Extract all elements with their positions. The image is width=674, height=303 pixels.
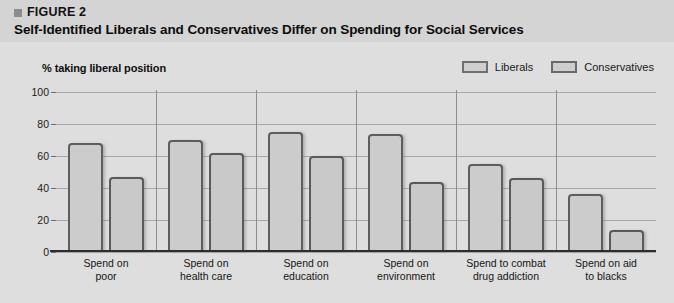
y-tick-mark — [51, 252, 56, 253]
bar-group — [156, 92, 256, 252]
chart-legend: Liberals Conservatives — [462, 61, 654, 73]
category-label: Spend to combatdrug addiction — [456, 257, 556, 283]
bar-group — [56, 92, 156, 252]
bar-conservatives — [609, 230, 644, 252]
bar-group — [256, 92, 356, 252]
category-label: Spend oneducation — [256, 257, 356, 283]
category-label: Spend onhealth care — [156, 257, 256, 283]
bar-group — [556, 92, 656, 252]
bar-group — [356, 92, 456, 252]
square-marker-icon — [14, 9, 22, 17]
category-label: Spend on aidto blacks — [556, 257, 656, 283]
y-tick-label: 40 — [37, 182, 49, 194]
y-tick-label: 100 — [31, 86, 49, 98]
bar-liberals — [68, 143, 103, 252]
y-tick-label: 80 — [37, 118, 49, 130]
y-axis-title: % taking liberal position — [42, 62, 166, 74]
figure-header: FIGURE 2 Self-Identified Liberals and Co… — [0, 0, 674, 42]
legend-swatch-conservatives — [551, 61, 577, 73]
legend-swatch-liberals — [462, 61, 488, 73]
legend-label-liberals: Liberals — [495, 61, 534, 73]
bar-conservatives — [509, 178, 544, 252]
bar-liberals — [468, 164, 503, 252]
category-label: Spend onenvironment — [356, 257, 456, 283]
figure-number-row: FIGURE 2 — [14, 5, 674, 20]
y-tick-label: 0 — [43, 246, 49, 258]
figure-number-label: FIGURE 2 — [27, 6, 86, 19]
y-tick-label: 20 — [37, 214, 49, 226]
bar-conservatives — [109, 177, 144, 252]
bar-groups — [56, 92, 656, 252]
legend-item-liberals: Liberals — [462, 61, 534, 73]
plot-area: 020406080100 — [56, 92, 656, 252]
gridline: 0 — [56, 252, 656, 253]
chart-panel: % taking liberal position Liberals Conse… — [0, 42, 674, 303]
bar-conservatives — [409, 182, 444, 252]
y-tick-label: 60 — [37, 150, 49, 162]
figure-title: Self-Identified Liberals and Conservativ… — [14, 22, 674, 38]
category-labels: Spend onpoorSpend onhealth careSpend one… — [56, 257, 656, 283]
bar-conservatives — [309, 156, 344, 252]
legend-label-conservatives: Conservatives — [584, 61, 654, 73]
figure-container: FIGURE 2 Self-Identified Liberals and Co… — [0, 0, 674, 303]
bar-conservatives — [209, 153, 244, 252]
x-axis-line — [50, 250, 656, 252]
category-label: Spend onpoor — [56, 257, 156, 283]
bar-liberals — [568, 194, 603, 252]
bar-liberals — [168, 140, 203, 252]
bar-liberals — [268, 132, 303, 252]
legend-item-conservatives: Conservatives — [551, 61, 654, 73]
bar-liberals — [368, 134, 403, 252]
bar-group — [456, 92, 556, 252]
